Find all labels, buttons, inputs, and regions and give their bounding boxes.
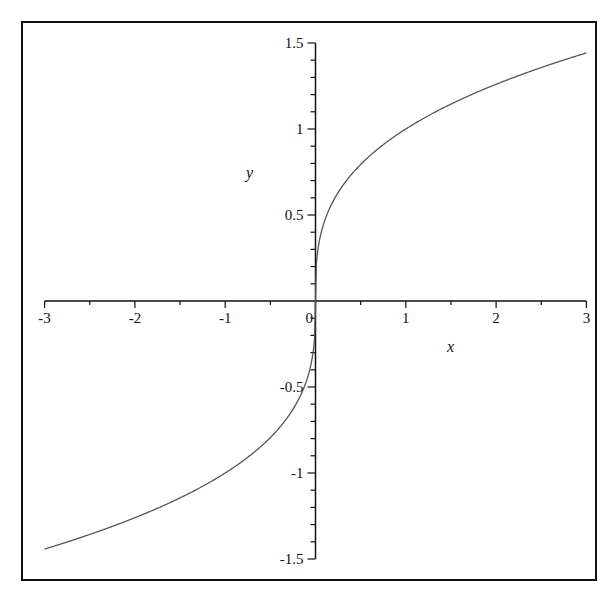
y-tick-label: -1.5 [280,551,304,567]
x-axis-label: x [446,338,454,355]
x-tick-label: -1 [219,310,232,326]
y-tick-label: -1 [291,465,304,481]
x-tick-label: -2 [129,310,142,326]
y-tick-label: 0.5 [285,207,304,223]
y-tick-label: -0.5 [280,379,304,395]
cube-root-plot: -3-2-10123 -1.5-1-0.50.511.5 x y [0,0,616,600]
x-tick-label: -3 [38,310,51,326]
y-tick-label: 1.5 [285,35,304,51]
x-tick-label: 2 [492,310,500,326]
y-tick-label: 1 [296,121,304,137]
y-axis-label: y [244,164,254,182]
x-tick-label: 1 [402,310,410,326]
x-axis-ticks: -3-2-10123 [38,301,590,326]
x-tick-label: 3 [583,310,591,326]
